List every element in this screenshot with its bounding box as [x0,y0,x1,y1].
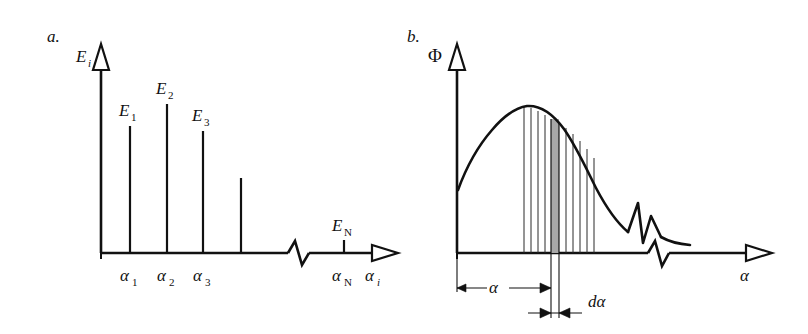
panel-a-x-axis-break-icon [288,241,309,265]
panel-b-curve-right [661,237,690,245]
panel-b-dalpha-arrow-right-icon [559,308,570,318]
panel-b-hatched-region [524,107,594,253]
panel-a-tick-label-1-subscript: 1 [132,276,138,288]
panel-b-curve-break-icon [628,203,661,243]
panel-b-alpha-dimension: α [457,253,559,318]
panel-b-y-axis-label: Φ [428,45,442,66]
panel-a: a. E i α i E 1 α 1 [47,27,398,288]
panel-a-spike-2-label-subscript: 2 [168,89,174,101]
panel-a-y-axis-arrow-icon [93,44,109,70]
panel-a-x-axis-label-subscript: i [377,276,380,288]
panel-a-tick-label-3-subscript: 3 [205,276,211,288]
panel-a-spike-2-label: E [155,79,167,98]
panel-b-curve-left [458,106,628,232]
panel-a-tick-label-n: α [332,266,342,285]
panel-a-label: a. [47,27,60,46]
panel-a-spike-1-label-subscript: 1 [131,111,137,123]
panel-a-y-axis-label: E [75,47,87,66]
panel-b: b. Φ α [407,27,772,318]
figure-root: a. E i α i E 1 α 1 [0,0,808,334]
panel-b-alpha-arrow-left-icon [457,284,466,292]
panel-a-spike-3-label-subscript: 3 [204,116,210,128]
panel-b-alpha-label: α [489,278,499,297]
panel-b-x-axis-break-icon [648,241,669,266]
panel-b-label: b. [407,27,420,46]
panel-b-alpha-arrow-right-icon [540,283,551,293]
panel-a-y-axis-label-subscript: i [88,57,91,69]
panel-b-dalpha-strip [551,119,559,253]
panel-a-tick-label-1: α [120,266,130,285]
panel-a-tick-label-2: α [157,266,167,285]
panel-b-y-axis-arrow-icon [449,44,465,70]
figure-svg: a. E i α i E 1 α 1 [0,0,808,334]
panel-a-spike-1-label: E [118,101,130,120]
panel-a-tick-label-3: α [193,266,203,285]
panel-b-dalpha-arrow-left-icon [540,308,551,318]
panel-b-x-axis-label: α [740,266,750,285]
panel-b-dalpha-label: dα [588,292,607,311]
panel-a-x-axis-label: α [365,266,375,285]
panel-a-spike-3-label: E [191,106,203,125]
panel-a-spike-n-label-subscript: N [344,226,352,238]
panel-a-tick-label-n-subscript: N [344,276,352,288]
panel-b-x-axis-arrow-icon [746,245,772,261]
panel-a-spike-n-label: E [331,216,343,235]
panel-b-dalpha-dimension: dα [528,292,607,318]
panel-a-x-axis-arrow-icon [372,245,398,261]
panel-a-tick-label-2-subscript: 2 [169,276,175,288]
